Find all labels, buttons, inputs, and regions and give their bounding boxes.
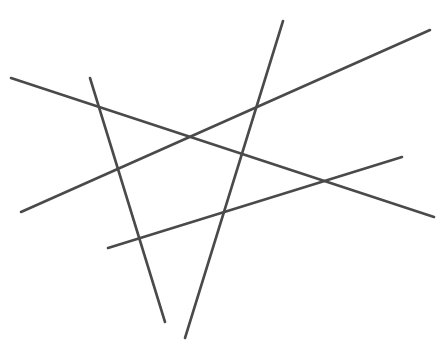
figure-canvas: [0, 0, 448, 345]
line-segments-svg: [0, 0, 448, 345]
